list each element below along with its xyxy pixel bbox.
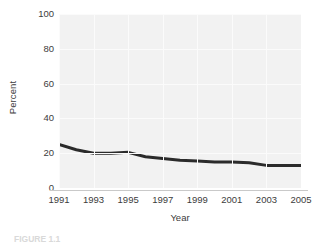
y-tick-label: 60 [24,79,54,89]
figure-container: Percent 020406080100 1991199319951997199… [0,0,317,243]
y-tick-label: 20 [24,148,54,158]
figure-caption: FIGURE 1.1 [14,234,274,243]
gridline-vertical [128,14,129,188]
y-tick-label: 100 [24,9,54,19]
x-axis-title: Year [59,212,301,223]
gridline-horizontal [59,118,301,119]
y-axis-title: Percent [7,63,18,133]
gridline-horizontal [59,49,301,50]
gridline-vertical [232,14,233,188]
y-tick-label: 80 [24,44,54,54]
gridline-vertical [94,14,95,188]
x-axis-tick-labels: 19911993199519971999200120032005 [0,195,317,209]
gridline-vertical [163,14,164,188]
plot-area [59,14,301,188]
y-tick-label: 0 [24,183,54,193]
gridline-horizontal [59,14,301,15]
y-tick-label: 40 [24,113,54,123]
gridline-vertical [59,14,60,188]
gridline-vertical [197,14,198,188]
gridline-vertical [266,14,267,188]
gridline-horizontal [59,153,301,154]
x-tick-label: 2005 [281,195,317,205]
data-series-line [59,14,301,188]
x-axis-line [50,190,308,191]
gridline-horizontal [59,84,301,85]
